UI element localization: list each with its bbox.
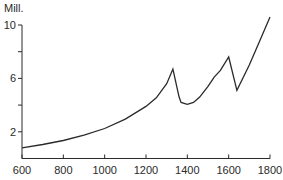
y-axis-unit-label: Mill. xyxy=(4,2,24,14)
y-tick-label: 6 xyxy=(10,72,16,84)
line-chart: Mill. 2610 60080010001200140016001800 xyxy=(0,0,283,180)
x-tick-label: 600 xyxy=(13,164,31,176)
x-tick-label: 1000 xyxy=(92,164,116,176)
x-tick-label: 1800 xyxy=(258,164,282,176)
y-tick-label: 2 xyxy=(10,126,16,138)
y-tick-label: 10 xyxy=(4,19,16,31)
population-line xyxy=(22,17,270,148)
x-axis: 60080010001200140016001800 xyxy=(13,155,282,176)
x-tick-label: 800 xyxy=(54,164,72,176)
x-tick-label: 1200 xyxy=(134,164,158,176)
x-tick-label: 1600 xyxy=(216,164,240,176)
y-axis: 2610 xyxy=(4,19,22,159)
x-tick-label: 1400 xyxy=(175,164,199,176)
